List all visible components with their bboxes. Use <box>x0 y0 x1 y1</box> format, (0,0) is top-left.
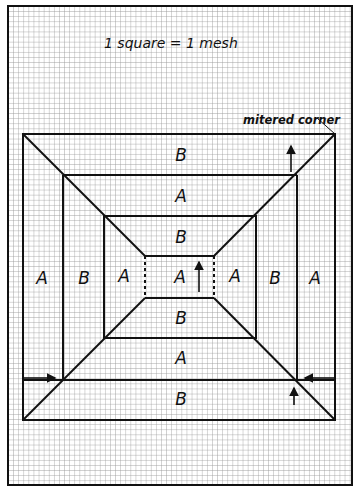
region-bottom-outer: B <box>175 389 187 409</box>
region-top-outer: B <box>175 145 187 165</box>
mitered-corner-callout: mitered corner <box>243 113 341 127</box>
region-top-inner: B <box>175 227 187 247</box>
scale-note: 1 square = 1 mesh <box>104 35 238 51</box>
region-left-inner: A <box>117 266 130 286</box>
region-center: A <box>173 267 186 287</box>
region-top-middle: A <box>174 186 187 206</box>
region-right-middle: B <box>269 268 281 288</box>
region-bottom-middle: A <box>174 348 187 368</box>
region-left-outer: A <box>35 268 48 288</box>
region-left-middle: B <box>78 268 90 288</box>
region-right-outer: A <box>308 268 321 288</box>
needlepoint-chart-diagram: 1 square = 1 mesh mitered corner B <box>0 0 360 495</box>
region-right-inner: A <box>228 266 241 286</box>
region-bottom-inner: B <box>175 308 187 328</box>
